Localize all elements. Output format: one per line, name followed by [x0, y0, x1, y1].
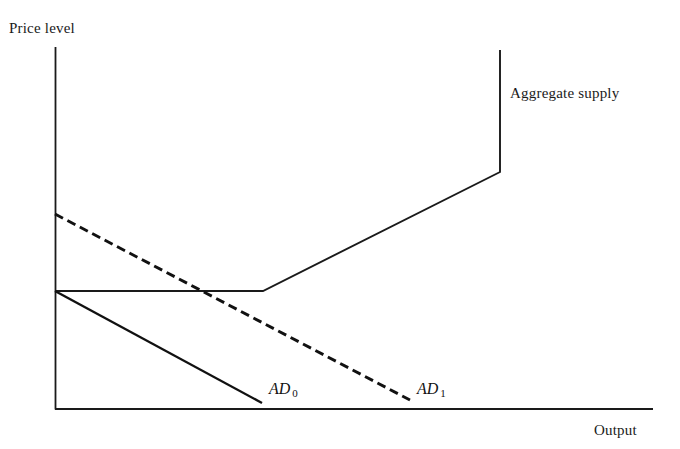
- x-axis-title: Output: [594, 423, 637, 438]
- y-axis-title: Price level: [9, 21, 75, 36]
- aggregate-supply-label: Aggregate supply: [510, 86, 619, 101]
- figure-keynesian-as-ad: Price level Output Aggregate supply AD0 …: [0, 0, 680, 449]
- ad0-label: AD0: [269, 381, 298, 399]
- ad1-label-subscript: 1: [440, 387, 446, 399]
- ad1-curve: [55, 214, 410, 400]
- chart-canvas: [0, 0, 680, 449]
- ad0-label-subscript: 0: [292, 387, 298, 399]
- ad1-label-text: AD: [417, 380, 440, 397]
- ad0-label-text: AD: [269, 380, 292, 397]
- aggregate-supply-curve: [55, 50, 500, 291]
- ad1-label: AD1: [417, 381, 446, 399]
